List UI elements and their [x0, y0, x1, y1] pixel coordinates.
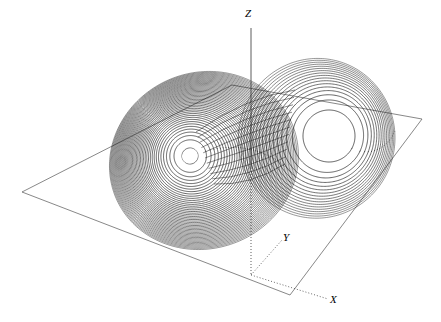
axis-label-x: X — [330, 294, 337, 305]
right-lobe-trajectory — [238, 58, 395, 218]
lorenz-attractor-figure: Z Y X — [0, 0, 441, 322]
left-lobe-focus-eye — [180, 147, 200, 166]
axis-label-y: Y — [283, 232, 289, 243]
attractor-plot-canvas — [0, 0, 441, 322]
axis-label-z: Z — [245, 8, 251, 19]
